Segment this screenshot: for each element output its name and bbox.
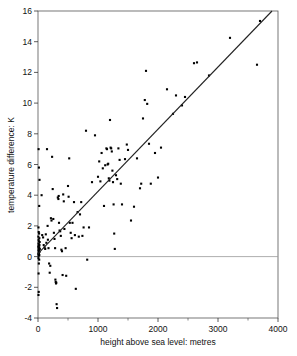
data-point — [47, 247, 49, 249]
data-point — [97, 176, 99, 178]
data-point — [83, 226, 85, 228]
data-point — [126, 143, 128, 145]
data-point — [63, 200, 65, 202]
data-point — [37, 226, 39, 228]
data-point — [65, 247, 67, 249]
data-point — [160, 147, 162, 149]
y-tick-label: 4 — [27, 190, 32, 200]
data-point — [52, 188, 54, 190]
data-point — [142, 117, 144, 119]
data-point — [110, 147, 112, 149]
data-point — [74, 234, 76, 236]
data-point — [56, 307, 58, 309]
data-point — [75, 288, 77, 290]
y-tick-label: 8 — [27, 129, 32, 139]
data-point — [53, 238, 55, 240]
y-tick-label: 12 — [23, 67, 33, 77]
data-point — [55, 282, 57, 284]
data-point — [38, 148, 40, 150]
data-point — [58, 222, 60, 224]
data-point — [38, 255, 40, 257]
data-point — [54, 247, 56, 249]
data-point — [49, 272, 51, 274]
data-point — [70, 232, 72, 234]
data-point — [139, 187, 141, 189]
data-point — [71, 237, 73, 239]
data-point — [38, 179, 40, 181]
data-point — [38, 262, 40, 264]
data-point — [91, 181, 93, 183]
x-tick-label: 3000 — [209, 324, 228, 334]
x-tick-label: 4000 — [269, 324, 288, 334]
data-point — [94, 134, 96, 136]
data-point — [88, 226, 90, 228]
y-tick-label: 2 — [27, 221, 32, 231]
data-point — [67, 185, 69, 187]
data-point — [44, 248, 46, 250]
data-point — [38, 205, 40, 207]
x-tick-label: 1000 — [89, 324, 108, 334]
data-point — [184, 96, 186, 98]
plot-area — [38, 11, 278, 318]
data-point — [154, 152, 156, 154]
data-point — [48, 262, 50, 264]
data-point — [256, 64, 258, 66]
data-point — [58, 195, 60, 197]
y-tick-label: 16 — [23, 6, 33, 16]
y-axis-title: temperature difference: K — [6, 117, 16, 213]
x-tick-label: 0 — [36, 324, 41, 334]
data-point — [37, 294, 39, 296]
data-point — [41, 194, 43, 196]
data-point — [41, 234, 43, 236]
y-tick-label: 14 — [23, 37, 33, 47]
y-axis-tick-labels: -4-20246810121416 — [23, 6, 33, 323]
data-point — [127, 149, 129, 151]
y-tick-label: 0 — [27, 252, 32, 262]
data-point — [52, 218, 54, 220]
y-axis-major-ticks — [34, 11, 38, 318]
data-point — [150, 183, 152, 185]
data-point — [47, 239, 49, 241]
data-point — [50, 219, 52, 221]
data-point — [140, 183, 142, 185]
data-point — [50, 217, 52, 219]
data-point — [46, 148, 48, 150]
data-point — [68, 196, 70, 198]
data-point — [109, 119, 111, 121]
data-point — [42, 236, 44, 238]
data-point — [146, 103, 148, 105]
data-point — [47, 225, 49, 227]
data-point — [136, 157, 138, 159]
data-point — [259, 20, 261, 22]
data-point — [229, 37, 231, 39]
data-point — [102, 167, 104, 169]
data-point — [49, 265, 51, 267]
data-point — [62, 193, 64, 195]
data-point — [120, 183, 122, 185]
data-point — [78, 236, 80, 238]
data-point — [157, 176, 159, 178]
data-point — [38, 233, 40, 235]
data-point — [111, 170, 113, 172]
data-point — [119, 159, 121, 161]
y-tick-label: -4 — [24, 313, 32, 323]
y-tick-label: 10 — [23, 98, 33, 108]
x-tick-label: 2000 — [149, 324, 168, 334]
y-tick-label: 6 — [27, 160, 32, 170]
data-point — [121, 203, 123, 205]
plot-frame — [38, 11, 278, 318]
data-point — [113, 233, 115, 235]
data-point — [103, 205, 105, 207]
data-point — [81, 235, 83, 237]
x-axis-major-ticks — [38, 318, 278, 322]
data-point — [54, 279, 56, 281]
x-axis-tick-labels: 01000200030004000 — [36, 324, 288, 334]
data-point — [73, 201, 75, 203]
data-point — [196, 61, 198, 63]
data-point — [38, 272, 40, 274]
data-point — [98, 160, 100, 162]
data-point — [144, 99, 146, 101]
data-point — [133, 206, 135, 208]
data-point — [145, 70, 147, 72]
data-point — [117, 147, 119, 149]
